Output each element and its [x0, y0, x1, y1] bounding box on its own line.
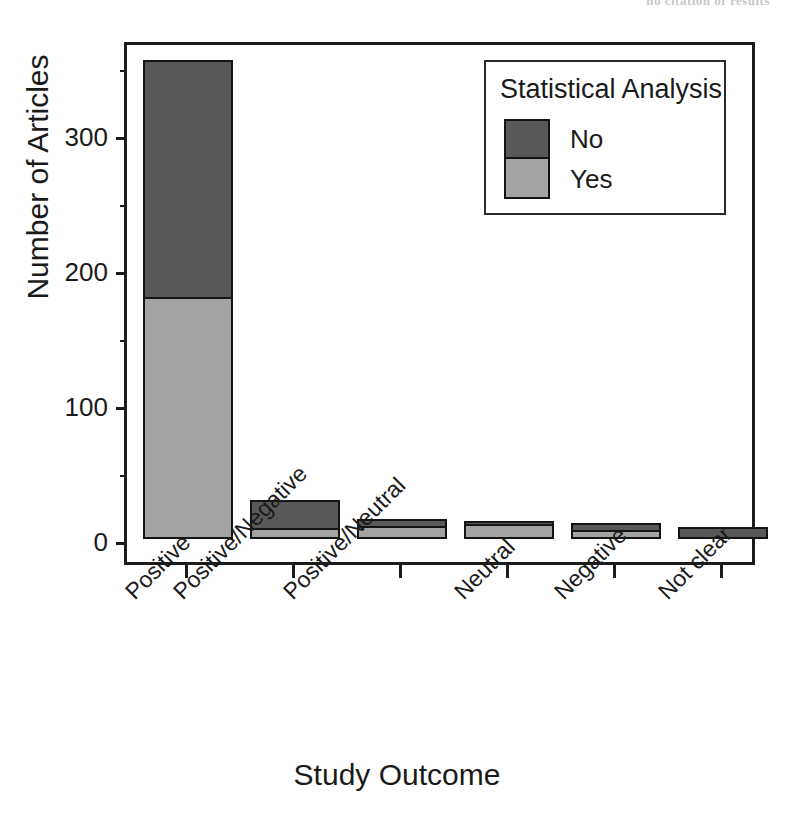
legend-row-no[interactable]: No	[504, 119, 612, 159]
bar-neutral[interactable]	[464, 521, 554, 539]
bar-positive-segment-yes[interactable]	[143, 297, 233, 539]
x-axis-title: Study Outcome	[0, 758, 794, 792]
y-tick-minor-250	[120, 205, 127, 207]
x-tick-negative	[613, 565, 616, 578]
legend-swatch-yes-icon	[504, 159, 550, 199]
y-tick-label-0: 0	[94, 527, 108, 558]
legend-label-no: No	[570, 124, 603, 155]
bar-positive[interactable]	[143, 60, 233, 539]
y-axis-title: Number of Articles	[21, 0, 55, 387]
y-tick-200	[116, 272, 127, 275]
y-tick-300	[116, 137, 127, 140]
legend-title: Statistical Analysis	[500, 74, 722, 105]
y-tick-label-200: 200	[65, 257, 108, 288]
legend-label-yes: Yes	[570, 164, 612, 195]
y-tick-label-300: 300	[65, 122, 108, 153]
y-tick-0	[116, 542, 127, 545]
y-tick-minor-350	[120, 70, 127, 72]
y-tick-minor-50	[120, 475, 127, 477]
bar-neutral-segment-yes[interactable]	[464, 524, 554, 539]
x-tick-not-clear	[720, 565, 723, 578]
legend-keys: No Yes	[504, 119, 612, 199]
legend: Statistical Analysis No Yes	[484, 60, 726, 215]
x-tick-neutral	[506, 565, 509, 578]
y-tick-label-100: 100	[65, 392, 108, 423]
legend-row-yes[interactable]: Yes	[504, 159, 612, 199]
bar-positive-segment-no[interactable]	[143, 60, 233, 299]
y-tick-100	[116, 407, 127, 410]
plot-panel: Statistical Analysis No Yes	[124, 42, 755, 565]
x-tick-positive-neutral	[399, 565, 402, 578]
figure-canvas: 300 200 100 0 Number of Articles	[0, 0, 794, 821]
legend-swatch-no-icon	[504, 119, 550, 159]
y-tick-minor-150	[120, 340, 127, 342]
